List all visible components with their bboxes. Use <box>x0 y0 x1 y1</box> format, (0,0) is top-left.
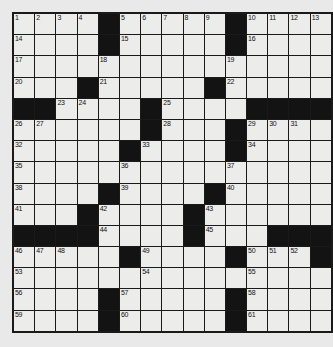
letter-cell[interactable] <box>268 35 288 55</box>
letter-cell[interactable] <box>289 78 309 98</box>
letter-cell[interactable] <box>226 205 246 225</box>
letter-cell[interactable] <box>311 56 331 76</box>
letter-cell[interactable] <box>35 289 55 309</box>
letter-cell[interactable]: 17 <box>14 56 34 76</box>
letter-cell[interactable] <box>311 141 331 161</box>
letter-cell[interactable] <box>120 99 140 119</box>
letter-cell[interactable] <box>311 289 331 309</box>
letter-cell[interactable]: 49 <box>141 247 161 267</box>
letter-cell[interactable] <box>184 184 204 204</box>
letter-cell[interactable] <box>120 205 140 225</box>
letter-cell[interactable] <box>184 78 204 98</box>
letter-cell[interactable] <box>289 162 309 182</box>
letter-cell[interactable]: 58 <box>247 289 267 309</box>
letter-cell[interactable]: 56 <box>14 289 34 309</box>
letter-cell[interactable] <box>311 120 331 140</box>
letter-cell[interactable]: 3 <box>56 14 76 34</box>
letter-cell[interactable]: 23 <box>56 99 76 119</box>
letter-cell[interactable] <box>247 162 267 182</box>
letter-cell[interactable] <box>289 311 309 331</box>
letter-cell[interactable] <box>184 162 204 182</box>
letter-cell[interactable]: 53 <box>14 268 34 288</box>
letter-cell[interactable] <box>78 141 98 161</box>
letter-cell[interactable] <box>120 78 140 98</box>
letter-cell[interactable] <box>99 120 119 140</box>
letter-cell[interactable] <box>184 99 204 119</box>
letter-cell[interactable] <box>99 99 119 119</box>
letter-cell[interactable] <box>184 289 204 309</box>
letter-cell[interactable] <box>56 205 76 225</box>
letter-cell[interactable]: 44 <box>99 226 119 246</box>
letter-cell[interactable]: 8 <box>184 14 204 34</box>
letter-cell[interactable]: 50 <box>247 247 267 267</box>
letter-cell[interactable]: 45 <box>205 226 225 246</box>
letter-cell[interactable] <box>205 99 225 119</box>
letter-cell[interactable]: 30 <box>268 120 288 140</box>
letter-cell[interactable] <box>78 56 98 76</box>
letter-cell[interactable]: 12 <box>289 14 309 34</box>
letter-cell[interactable] <box>184 311 204 331</box>
letter-cell[interactable] <box>226 268 246 288</box>
letter-cell[interactable]: 20 <box>14 78 34 98</box>
letter-cell[interactable] <box>141 311 161 331</box>
letter-cell[interactable] <box>184 268 204 288</box>
letter-cell[interactable] <box>56 162 76 182</box>
letter-cell[interactable] <box>141 35 161 55</box>
letter-cell[interactable]: 57 <box>120 289 140 309</box>
letter-cell[interactable] <box>205 289 225 309</box>
letter-cell[interactable]: 11 <box>268 14 288 34</box>
letter-cell[interactable] <box>78 311 98 331</box>
letter-cell[interactable] <box>99 268 119 288</box>
letter-cell[interactable] <box>56 311 76 331</box>
letter-cell[interactable] <box>247 226 267 246</box>
letter-cell[interactable]: 37 <box>226 162 246 182</box>
letter-cell[interactable]: 36 <box>120 162 140 182</box>
letter-cell[interactable] <box>268 289 288 309</box>
letter-cell[interactable] <box>205 141 225 161</box>
letter-cell[interactable] <box>311 78 331 98</box>
letter-cell[interactable] <box>205 120 225 140</box>
letter-cell[interactable] <box>226 99 246 119</box>
letter-cell[interactable] <box>268 162 288 182</box>
letter-cell[interactable]: 31 <box>289 120 309 140</box>
letter-cell[interactable] <box>247 184 267 204</box>
letter-cell[interactable] <box>56 289 76 309</box>
letter-cell[interactable] <box>162 184 182 204</box>
letter-cell[interactable] <box>141 226 161 246</box>
letter-cell[interactable] <box>226 226 246 246</box>
letter-cell[interactable]: 21 <box>99 78 119 98</box>
letter-cell[interactable]: 52 <box>289 247 309 267</box>
letter-cell[interactable]: 34 <box>247 141 267 161</box>
letter-cell[interactable]: 13 <box>311 14 331 34</box>
letter-cell[interactable]: 10 <box>247 14 267 34</box>
letter-cell[interactable] <box>311 311 331 331</box>
letter-cell[interactable] <box>311 268 331 288</box>
letter-cell[interactable] <box>289 268 309 288</box>
letter-cell[interactable] <box>162 268 182 288</box>
letter-cell[interactable]: 4 <box>78 14 98 34</box>
letter-cell[interactable]: 15 <box>120 35 140 55</box>
letter-cell[interactable]: 55 <box>247 268 267 288</box>
letter-cell[interactable] <box>289 184 309 204</box>
letter-cell[interactable] <box>268 311 288 331</box>
letter-cell[interactable] <box>120 226 140 246</box>
letter-cell[interactable] <box>78 120 98 140</box>
letter-cell[interactable]: 60 <box>120 311 140 331</box>
letter-cell[interactable]: 1 <box>14 14 34 34</box>
letter-cell[interactable] <box>289 141 309 161</box>
letter-cell[interactable] <box>56 141 76 161</box>
letter-cell[interactable] <box>311 205 331 225</box>
letter-cell[interactable]: 47 <box>35 247 55 267</box>
letter-cell[interactable] <box>35 162 55 182</box>
letter-cell[interactable]: 59 <box>14 311 34 331</box>
letter-cell[interactable]: 18 <box>99 56 119 76</box>
letter-cell[interactable] <box>184 247 204 267</box>
letter-cell[interactable] <box>247 205 267 225</box>
letter-cell[interactable]: 43 <box>205 205 225 225</box>
letter-cell[interactable] <box>268 184 288 204</box>
letter-cell[interactable] <box>289 35 309 55</box>
letter-cell[interactable]: 7 <box>162 14 182 34</box>
letter-cell[interactable] <box>35 141 55 161</box>
letter-cell[interactable] <box>184 120 204 140</box>
letter-cell[interactable] <box>120 120 140 140</box>
